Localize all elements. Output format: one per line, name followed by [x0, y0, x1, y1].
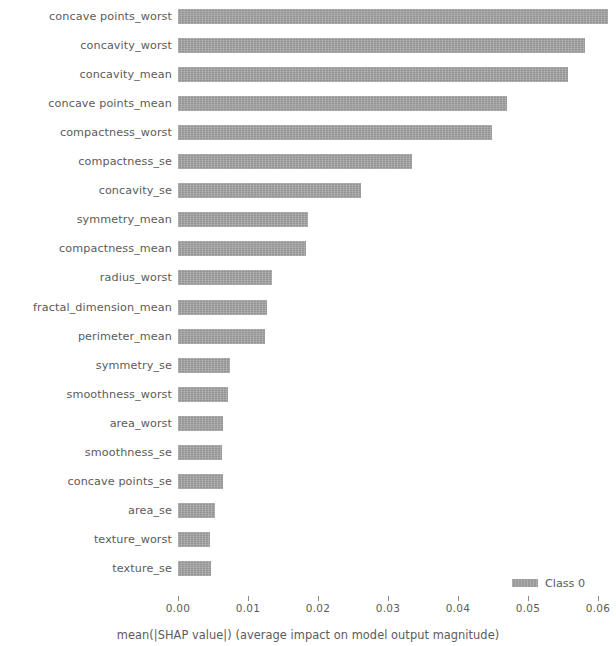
- bar: [178, 532, 210, 547]
- bar-row: area_se: [0, 502, 616, 519]
- bar-row: texture_worst: [0, 531, 616, 548]
- x-axis-caption: mean(|SHAP value|) (average impact on mo…: [0, 628, 616, 642]
- bar: [178, 125, 492, 140]
- bar: [178, 212, 308, 227]
- x-axis-tick-label: 0.00: [155, 602, 201, 614]
- chart-legend: Class 0: [512, 576, 585, 590]
- bar-label: radius_worst: [0, 269, 172, 286]
- bar-row: concavity_worst: [0, 37, 616, 54]
- x-axis-tick-label: 0.02: [295, 602, 341, 614]
- legend-label-class-0: Class 0: [545, 577, 585, 590]
- x-axis-tick-label: 0.06: [575, 602, 616, 614]
- bar-row: texture_se: [0, 560, 616, 577]
- bar: [178, 270, 272, 285]
- legend-swatch-class-0: [512, 579, 538, 587]
- bar-label: concavity_mean: [0, 66, 172, 83]
- bar-label: area_worst: [0, 415, 172, 432]
- bar-row: smoothness_se: [0, 444, 616, 461]
- bar-row: compactness_mean: [0, 240, 616, 257]
- bar: [178, 387, 228, 402]
- bar-label: smoothness_se: [0, 444, 172, 461]
- bar: [178, 300, 267, 315]
- bar: [178, 67, 568, 82]
- x-axis-tick: [248, 596, 249, 601]
- bar-label: texture_worst: [0, 531, 172, 548]
- x-axis-tick-label: 0.04: [435, 602, 481, 614]
- bar-row: symmetry_mean: [0, 211, 616, 228]
- bar: [178, 474, 223, 489]
- bar-label: concave points_se: [0, 473, 172, 490]
- x-axis-tick: [388, 596, 389, 601]
- bar-label: smoothness_worst: [0, 386, 172, 403]
- shap-summary-bar-chart: concave points_worstconcavity_worstconca…: [0, 0, 616, 646]
- bar-row: compactness_se: [0, 153, 616, 170]
- bar: [178, 329, 265, 344]
- x-axis-tick: [598, 596, 599, 601]
- bar-row: concave points_mean: [0, 95, 616, 112]
- bar-label: symmetry_mean: [0, 211, 172, 228]
- bar: [178, 38, 585, 53]
- bar: [178, 9, 608, 24]
- bar: [178, 416, 223, 431]
- bar-row: concave points_worst: [0, 8, 616, 25]
- bar-label: concavity_worst: [0, 37, 172, 54]
- x-axis-tick-label: 0.03: [365, 602, 411, 614]
- bar-row: symmetry_se: [0, 357, 616, 374]
- bar-label: area_se: [0, 502, 172, 519]
- x-axis-tick: [458, 596, 459, 601]
- bar: [178, 183, 361, 198]
- bar-label: compactness_se: [0, 153, 172, 170]
- x-axis-tick: [528, 596, 529, 601]
- bar-row: concave points_se: [0, 473, 616, 490]
- bar-label: concavity_se: [0, 182, 172, 199]
- bar: [178, 96, 507, 111]
- bar-label: compactness_mean: [0, 240, 172, 257]
- x-axis: 0.000.010.020.030.040.050.06: [0, 596, 616, 626]
- bar-row: smoothness_worst: [0, 386, 616, 403]
- bar-row: fractal_dimension_mean: [0, 299, 616, 316]
- x-axis-tick-label: 0.01: [225, 602, 271, 614]
- bar: [178, 503, 215, 518]
- bar-row: perimeter_mean: [0, 328, 616, 345]
- bar-row: area_worst: [0, 415, 616, 432]
- bar: [178, 445, 222, 460]
- bar-label: texture_se: [0, 560, 172, 577]
- bar-label: concave points_worst: [0, 8, 172, 25]
- bar-label: fractal_dimension_mean: [0, 299, 172, 316]
- bar: [178, 154, 412, 169]
- bar-row: compactness_worst: [0, 124, 616, 141]
- bar-row: radius_worst: [0, 269, 616, 286]
- bar-row: concavity_mean: [0, 66, 616, 83]
- bar: [178, 561, 211, 576]
- bar-label: concave points_mean: [0, 95, 172, 112]
- bar-label: symmetry_se: [0, 357, 172, 374]
- bar: [178, 358, 230, 373]
- x-axis-tick: [178, 596, 179, 601]
- bar: [178, 241, 306, 256]
- x-axis-tick-label: 0.05: [505, 602, 551, 614]
- bar-row: concavity_se: [0, 182, 616, 199]
- bar-label: perimeter_mean: [0, 328, 172, 345]
- x-axis-tick: [318, 596, 319, 601]
- bar-label: compactness_worst: [0, 124, 172, 141]
